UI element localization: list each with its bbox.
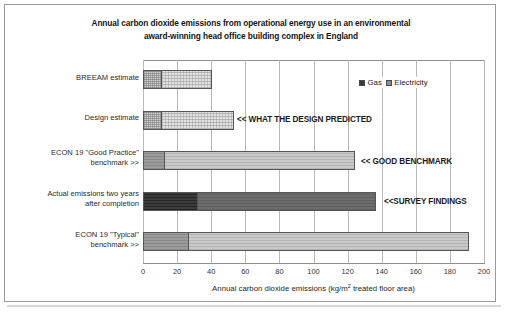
x-tick-100: 100: [302, 267, 326, 276]
figure-drop-shadow: [7, 305, 501, 307]
y-label-breeam-estimate: BREEAM estimate: [11, 73, 139, 83]
x-tick-140: 140: [370, 267, 394, 276]
bar-segment-gas: [143, 70, 162, 89]
y-label-actual-emissions: Actual emissions two years after complet…: [11, 189, 139, 209]
annotation-what-the-design-predicted: << WHAT THE DESIGN PREDICTED: [237, 115, 372, 124]
x-axis-title-prefix: Annual carbon dioxide emissions (kg/m: [212, 284, 348, 293]
x-tick-0: 0: [131, 267, 155, 276]
bar-segment-gas: [143, 111, 162, 130]
y-label-line: ECON 19 "Typical": [11, 230, 139, 240]
gridline-200: [484, 60, 485, 263]
bar-segment-gas: [143, 192, 198, 211]
legend-swatch-gas-icon: [359, 80, 365, 86]
y-axis-category-labels: BREEAM estimate Design estimate ECON 19 …: [9, 60, 139, 263]
y-label-line: BREEAM estimate: [11, 73, 139, 83]
x-axis-tick-labels: 0 20 40 60 80 100 120 140 160 180 200: [143, 267, 488, 279]
chart-title-line-2: award-winning head office building compl…: [35, 30, 467, 43]
stacked-bar-breeam-estimate[interactable]: [143, 70, 212, 89]
y-label-econ19-typical: ECON 19 "Typical" benchmark >>: [11, 230, 139, 250]
x-axis-line: [143, 263, 485, 264]
bar-segment-gas: [143, 232, 189, 251]
x-tick-160: 160: [404, 267, 428, 276]
x-tick-200: 200: [472, 267, 496, 276]
y-label-design-estimate: Design estimate: [11, 113, 139, 123]
stacked-bar-design-estimate[interactable]: [143, 111, 234, 130]
y-label-line: Actual emissions two years: [11, 189, 139, 199]
x-tick-120: 120: [336, 267, 360, 276]
legend-item-electricity[interactable]: Electricity: [386, 78, 428, 87]
legend-item-gas[interactable]: Gas: [359, 78, 382, 87]
y-label-line: benchmark >>: [11, 240, 139, 250]
bar-segment-electricity: [188, 232, 469, 251]
y-label-line: Design estimate: [11, 113, 139, 123]
y-label-line: ECON 19 "Good Practice": [11, 148, 139, 158]
legend-label-electricity: Electricity: [394, 78, 427, 87]
y-label-econ19-good-practice: ECON 19 "Good Practice" benchmark >>: [11, 148, 139, 168]
y-label-line: after completion: [11, 199, 139, 209]
bar-segment-electricity: [164, 151, 355, 170]
x-tick-180: 180: [438, 267, 462, 276]
annotation-good-benchmark: << GOOD BENCHMARK: [361, 157, 452, 166]
chart-figure-frame: Annual carbon dioxide emissions from ope…: [4, 4, 496, 302]
bar-segment-electricity: [197, 192, 376, 211]
x-tick-80: 80: [267, 267, 291, 276]
legend-label-gas: Gas: [368, 78, 382, 87]
bar-segment-electricity: [161, 70, 212, 89]
annotation-survey-findings: <<SURVEY FINDINGS: [384, 197, 467, 206]
x-axis-title: Annual carbon dioxide emissions (kg/m2 t…: [143, 283, 484, 293]
chart-title: Annual carbon dioxide emissions from ope…: [35, 17, 467, 42]
x-tick-20: 20: [165, 267, 189, 276]
x-axis-title-suffix: treated floor area): [351, 284, 415, 293]
bar-segment-electricity: [161, 111, 234, 130]
bar-segment-gas: [143, 151, 165, 170]
chart-legend: Gas Electricity: [357, 77, 430, 88]
x-tick-60: 60: [233, 267, 257, 276]
chart-title-line-1: Annual carbon dioxide emissions from ope…: [35, 17, 467, 30]
legend-swatch-electricity-icon: [386, 80, 392, 86]
stacked-bar-econ19-good-practice[interactable]: [143, 151, 355, 170]
stacked-bar-actual-emissions[interactable]: [143, 192, 376, 211]
y-label-line: benchmark >>: [11, 158, 139, 168]
x-tick-40: 40: [199, 267, 223, 276]
stacked-bar-econ19-typical[interactable]: [143, 232, 469, 251]
